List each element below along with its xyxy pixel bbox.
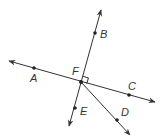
point-a [32, 66, 36, 70]
label-c: C [128, 80, 136, 92]
diagram-canvas: A B C D E F [0, 0, 166, 140]
point-d [115, 118, 119, 122]
label-e: E [80, 105, 88, 117]
geometry-diagram: A B C D E F [0, 0, 166, 140]
label-f: F [72, 65, 80, 77]
point-e [73, 106, 77, 110]
point-f [79, 80, 83, 84]
label-b: B [100, 28, 107, 40]
point-c [127, 93, 131, 97]
label-a: A [29, 72, 37, 84]
label-d: D [121, 106, 129, 118]
point-b [93, 31, 97, 35]
